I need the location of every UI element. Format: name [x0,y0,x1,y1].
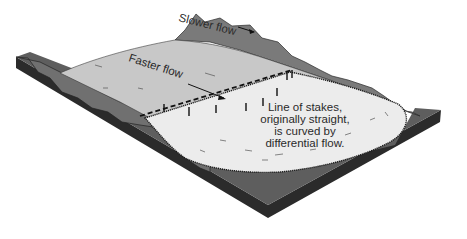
glacier-flow-diagram: Slower flow Faster flow Line of stakes, … [0,0,467,239]
caption-line-4: differential flow. [265,137,344,149]
caption-line-2: originally straight, [260,113,349,125]
caption-line-1: Line of stakes, [268,101,342,113]
caption-line-3: is curved by [274,125,336,137]
